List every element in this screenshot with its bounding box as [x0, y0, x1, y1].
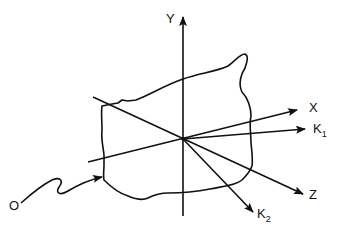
k2-label-subscript: 2 — [266, 214, 271, 224]
origin-pointer-label: O — [9, 199, 19, 212]
k2-label-main: K — [257, 206, 266, 221]
z-axis-label: Z — [309, 188, 317, 201]
z-axis — [93, 97, 303, 194]
coordinate-diagram — [0, 0, 344, 233]
y-axis-label: Y — [166, 12, 175, 25]
k2-vector — [183, 139, 253, 212]
pointer-curve — [21, 177, 102, 203]
origin-point — [181, 137, 185, 141]
x-axis-label: X — [309, 101, 318, 114]
x-axis — [88, 110, 297, 162]
k1-label: K1 — [313, 122, 327, 135]
k2-label: K2 — [257, 207, 271, 220]
k1-label-main: K — [313, 121, 322, 136]
k1-label-subscript: 1 — [322, 129, 327, 139]
